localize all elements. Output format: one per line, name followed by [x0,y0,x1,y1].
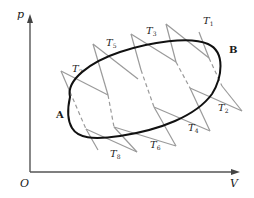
label-t8: T8 [110,149,121,160]
origin-label: O [20,178,29,189]
label-t6: T6 [150,140,161,151]
zigzag-t7-left [61,71,70,92]
label-t5: T5 [106,38,117,49]
zigzag-t4-bottom [154,107,210,131]
dash-t1-t2 [176,62,190,88]
label-t7: T7 [72,64,83,75]
state-b-label: B [229,45,237,55]
label-t4: T4 [188,123,199,134]
pv-diagram-svg [0,0,254,198]
label-t8-base: T [110,148,117,159]
p-axis-arrow-icon [27,14,33,23]
zigzag-t7-top [61,71,108,95]
p-axis-label: p [17,9,24,20]
label-t2-sub: 2 [225,107,229,114]
label-t7-base: T [72,63,79,74]
pv-diagram: p V O A B T1 T2 T3 T4 T5 T6 T7 T8 [0,0,254,198]
dash-t3-t4 [141,70,154,107]
label-t6-sub: 6 [157,144,161,151]
label-t3: T3 [146,26,157,37]
label-t6-base: T [150,139,157,150]
label-t1-base: T [203,15,210,26]
label-t3-base: T [146,25,153,36]
label-t5-sub: 5 [113,42,117,49]
state-a-label: A [56,110,64,120]
label-t5-base: T [106,37,113,48]
v-axis-label: V [230,178,238,189]
label-t7-sub: 7 [79,68,83,75]
label-t4-base: T [188,122,195,133]
label-t8-sub: 8 [117,153,121,160]
label-t4-sub: 4 [195,127,199,134]
label-t3-sub: 3 [153,30,157,37]
label-t2-base: T [218,102,225,113]
label-t1: T1 [203,16,214,27]
zigzag-t5-left [93,44,108,95]
label-t1-sub: 1 [210,20,214,27]
dash-t7-t8 [70,92,86,129]
dash-t5-t6 [108,95,114,127]
label-t2: T2 [218,103,229,114]
dashed-connectors [70,58,222,129]
v-axis-arrow-icon [231,169,240,175]
